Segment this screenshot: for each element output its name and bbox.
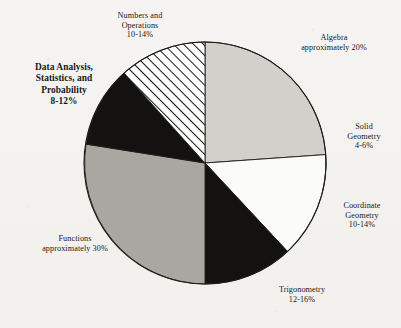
- pie-label-line: Probability: [8, 85, 120, 96]
- pie-label-value: approximately 20%: [274, 43, 394, 53]
- pie-label-value: 10-14%: [84, 30, 196, 40]
- pie-label-numbers-operations: Numbers and Operations 10-14%: [84, 11, 196, 40]
- pie-label-functions: Functions approximately 30%: [14, 234, 136, 253]
- pie-label-line: Coordinate: [324, 201, 400, 211]
- pie-label-value: 8-12%: [8, 96, 120, 107]
- pie-label-line: Data Analysis,: [8, 62, 120, 73]
- pie-slice-functions: [85, 144, 205, 284]
- pie-label-line: Numbers and: [84, 11, 196, 21]
- pie-label-line: Solid: [330, 122, 398, 132]
- pie-label-data-analysis: Data Analysis, Statistics, and Probabili…: [8, 62, 120, 108]
- pie-label-line: Geometry: [324, 211, 400, 221]
- pie-label-line: Geometry: [330, 132, 398, 142]
- pie-label-line: Operations: [84, 21, 196, 31]
- pie-label-value: 12-16%: [246, 295, 358, 305]
- pie-label-line: Trigonometry: [246, 285, 358, 295]
- pie-label-line: Algebra: [274, 33, 394, 43]
- pie-label-value: 10-14%: [324, 220, 400, 230]
- pie-label-value: approximately 30%: [14, 244, 136, 254]
- pie-label-solid-geometry: Solid Geometry 4-6%: [330, 122, 398, 151]
- pie-label-line: Functions: [14, 234, 136, 244]
- pie-chart: Numbers and Operations 10-14% Algebra ap…: [0, 0, 401, 328]
- pie-label-value: 4-6%: [330, 141, 398, 151]
- scanned-page: Numbers and Operations 10-14% Algebra ap…: [0, 0, 401, 328]
- pie-label-trigonometry: Trigonometry 12-16%: [246, 285, 358, 304]
- pie-label-line: Statistics, and: [8, 73, 120, 84]
- pie-label-coordinate-geometry: Coordinate Geometry 10-14%: [324, 201, 400, 230]
- pie-label-algebra: Algebra approximately 20%: [274, 33, 394, 52]
